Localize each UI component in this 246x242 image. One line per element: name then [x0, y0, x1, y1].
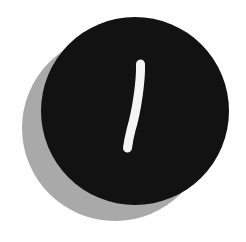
number-badge: 1 — [0, 0, 246, 242]
number-one-badge-icon: 1 — [0, 0, 246, 242]
